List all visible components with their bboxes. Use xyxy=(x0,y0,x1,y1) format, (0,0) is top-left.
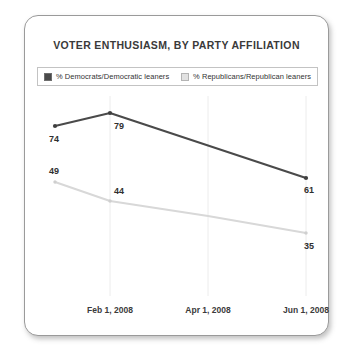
chart-legend: % Democrats/Democratic leaners % Republi… xyxy=(37,67,318,86)
dark-square-swatch-icon xyxy=(44,73,52,81)
chart-page: VOTER ENTHUSIASM, BY PARTY AFFILIATION %… xyxy=(0,0,353,354)
x-axis-labels: Feb 1, 2008 Apr 1, 2008 Jun 1, 2008 xyxy=(37,305,318,325)
data-label-dem-61: 61 xyxy=(304,185,314,195)
data-label-rep-49: 49 xyxy=(49,166,59,176)
legend-item-republicans[interactable]: % Republicans/Republican leaners xyxy=(181,72,311,81)
chart-plot-svg: 74 79 61 49 44 35 xyxy=(37,96,318,296)
gridlines xyxy=(110,96,306,296)
data-label-rep-35: 35 xyxy=(304,241,314,251)
democrat-line-series xyxy=(55,113,306,178)
light-square-swatch-icon xyxy=(181,73,189,81)
legend-item-democrats[interactable]: % Democrats/Democratic leaners xyxy=(44,72,169,81)
chart-card: VOTER ENTHUSIASM, BY PARTY AFFILIATION %… xyxy=(24,15,329,336)
data-label-dem-74: 74 xyxy=(49,134,59,144)
chart-title: VOTER ENTHUSIASM, BY PARTY AFFILIATION xyxy=(25,39,328,51)
x-tick-label-jun: Jun 1, 2008 xyxy=(283,305,329,315)
republican-line-series xyxy=(55,182,306,233)
data-label-dem-79: 79 xyxy=(114,121,124,131)
legend-label-republicans: % Republicans/Republican leaners xyxy=(193,72,311,81)
data-label-rep-44: 44 xyxy=(114,186,124,196)
x-tick-label-feb: Feb 1, 2008 xyxy=(87,305,133,315)
x-tick-label-apr: Apr 1, 2008 xyxy=(185,305,230,315)
legend-label-democrats: % Democrats/Democratic leaners xyxy=(56,72,169,81)
democrat-point-markers xyxy=(53,111,308,180)
plot-area: 74 79 61 49 44 35 xyxy=(37,96,318,296)
